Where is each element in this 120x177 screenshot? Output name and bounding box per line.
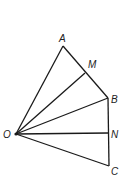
label-O: O [3,129,11,140]
segment-OM [16,73,85,134]
segment-BC [108,98,109,166]
segment-OB [16,98,108,134]
segment-ON [16,133,108,134]
geometry-diagram: A M B O N C [0,0,120,177]
segment-AB [63,46,108,98]
segment-OA [16,46,63,134]
label-M: M [88,59,97,70]
label-B: B [111,94,118,105]
label-C: C [111,166,119,177]
label-A: A [58,33,66,44]
label-N: N [111,129,119,140]
segment-OC [16,134,109,166]
point-O [14,132,17,135]
